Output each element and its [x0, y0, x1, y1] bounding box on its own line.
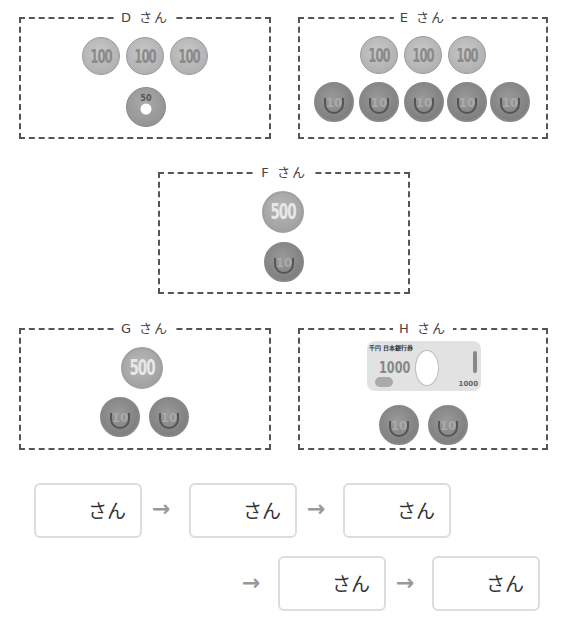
- coin-500-icon: 500: [121, 347, 163, 389]
- bill-watermark: [415, 350, 439, 386]
- arrow-right-icon: →: [242, 572, 260, 594]
- san-label: さん: [397, 496, 435, 523]
- san-label: さん: [243, 496, 281, 523]
- san-label: さん: [88, 496, 126, 523]
- coin-10-icon: 10: [149, 397, 189, 437]
- coin-10-icon: 10: [447, 82, 487, 122]
- arrow-right-icon: →: [307, 498, 325, 520]
- coin-10-icon: 10: [264, 242, 304, 282]
- 1000-yen-bill-icon: 千円 日本銀行券 1000 1000: [367, 341, 481, 391]
- answer-box-4[interactable]: さん: [278, 556, 386, 611]
- arrow-right-icon: →: [152, 498, 170, 520]
- coin-100-icon: 100: [170, 37, 208, 75]
- box-label-g: G さん: [115, 320, 175, 338]
- bill-decoration: [375, 377, 393, 387]
- box-label-e: E さん: [394, 9, 452, 27]
- coin-10-icon: 10: [490, 82, 530, 122]
- answer-box-2[interactable]: さん: [189, 483, 297, 538]
- answer-box-3[interactable]: さん: [343, 483, 451, 538]
- coin-100-icon: 100: [360, 36, 398, 74]
- coin-100-icon: 100: [126, 37, 164, 75]
- coin-100-icon: 100: [448, 36, 486, 74]
- box-label-f: F さん: [255, 164, 313, 182]
- coin-10-icon: 10: [359, 82, 399, 122]
- box-label-h: H さん: [393, 320, 453, 338]
- coin-100-icon: 100: [82, 37, 120, 75]
- bill-small-value: 1000: [459, 380, 478, 388]
- coin-100-icon: 100: [404, 36, 442, 74]
- coin-50-icon: 50: [126, 87, 166, 127]
- coin-10-icon: 10: [428, 405, 468, 445]
- coin-10-icon: 10: [314, 82, 354, 122]
- bill-header: 千円 日本銀行券: [369, 343, 413, 352]
- bill-decoration: [473, 351, 477, 373]
- san-label: さん: [486, 569, 524, 596]
- answer-box-1[interactable]: さん: [34, 483, 142, 538]
- coin-10-icon: 10: [100, 397, 140, 437]
- arrow-right-icon: →: [396, 572, 414, 594]
- answer-box-5[interactable]: さん: [432, 556, 540, 611]
- bill-value: 1000: [379, 359, 410, 377]
- coin-500-icon: 500: [262, 191, 304, 233]
- box-label-d: D さん: [115, 9, 175, 27]
- san-label: さん: [332, 569, 370, 596]
- coin-10-icon: 10: [404, 82, 444, 122]
- coin-10-icon: 10: [379, 405, 419, 445]
